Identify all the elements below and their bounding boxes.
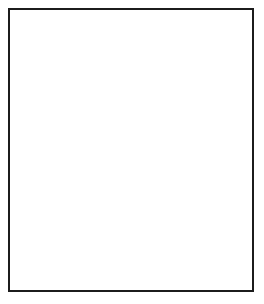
chart-root: 100 90 80 70 60 50 40 30 20 10 100 200 4… — [0, 0, 264, 304]
figure-border — [8, 8, 254, 292]
